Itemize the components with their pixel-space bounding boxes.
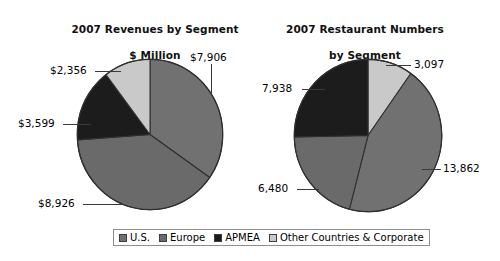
pie-slice-right-apmea	[294, 59, 368, 137]
callout-right-us: 13,862	[443, 163, 480, 174]
callout-left-us: $7,906	[190, 52, 227, 63]
legend-swatch-other	[269, 234, 277, 242]
figure-container: 2007 Revenues by Segment $ Million 2007 …	[0, 0, 500, 261]
chart-legend: U.S.EuropeAPMEAOther Countries & Corpora…	[113, 229, 430, 246]
legend-label-europe: Europe	[170, 232, 205, 243]
callout-right-apmea: 7,938	[262, 83, 292, 94]
chart-title-left-line1: 2007 Revenues by Segment	[55, 23, 255, 36]
callout-right-europe: 6,480	[258, 183, 288, 194]
legend-item-europe[interactable]: Europe	[159, 232, 205, 243]
callout-left-apmea: $3,599	[18, 118, 55, 129]
leader-line-left-us	[211, 64, 212, 96]
legend-label-other: Other Countries & Corporate	[280, 232, 424, 243]
leader-line-left-other	[95, 71, 121, 72]
callout-right-other: 3,097	[414, 59, 444, 70]
chart-title-right-line1: 2007 Restaurant Numbers	[265, 23, 465, 36]
legend-item-other[interactable]: Other Countries & Corporate	[269, 232, 424, 243]
leader-line-right-europe	[297, 189, 319, 190]
pie-left-svg	[75, 57, 225, 212]
callout-left-europe: $8,926	[38, 198, 75, 209]
leader-line-left-apmea	[63, 124, 91, 125]
legend-swatch-us	[119, 234, 127, 242]
pie-chart-revenues	[75, 57, 225, 212]
legend-label-apmea: APMEA	[225, 232, 260, 243]
legend-swatch-europe	[159, 234, 167, 242]
leader-line-left-europe	[83, 204, 125, 205]
legend-item-apmea[interactable]: APMEA	[214, 232, 260, 243]
leader-line-right-us	[422, 169, 441, 170]
callout-left-other: $2,356	[50, 65, 87, 76]
pie-right-svg	[292, 57, 444, 214]
legend-item-us[interactable]: U.S.	[119, 232, 150, 243]
legend-label-us: U.S.	[130, 232, 150, 243]
leader-line-right-apmea	[302, 89, 325, 90]
pie-chart-restaurant-numbers	[292, 57, 444, 214]
legend-swatch-apmea	[214, 234, 222, 242]
leader-line-right-other	[386, 65, 411, 66]
